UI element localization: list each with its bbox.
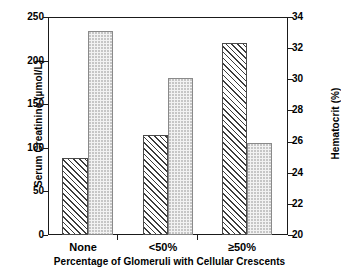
right-axis-tick: [288, 17, 293, 18]
right-axis-tick: [288, 48, 293, 49]
right-axis-tick-label: 22: [292, 199, 332, 209]
left-axis-tick-label: 0: [4, 230, 44, 240]
right-axis-tick: [288, 173, 293, 174]
right-axis-tick-label: 26: [292, 136, 332, 146]
right-axis-title: Hematocrit (%): [330, 34, 341, 214]
right-axis-tick-label: 28: [292, 105, 332, 115]
x-axis-category-label: None: [48, 241, 118, 253]
x-axis-tick: [117, 235, 118, 240]
x-axis-tick: [197, 235, 198, 240]
right-axis-tick-label: 20: [292, 230, 332, 240]
right-axis-tick: [288, 110, 293, 111]
bar-hematocrit-lt50[interactable]: [168, 78, 193, 235]
right-axis-tick-label: 34: [292, 12, 332, 22]
right-axis-tick-label: 32: [292, 43, 332, 53]
bars-layer: [48, 17, 288, 235]
left-axis-tick-label: 250: [4, 12, 44, 22]
left-axis-tick-label: 100: [4, 143, 44, 153]
left-axis-tick: [43, 235, 48, 236]
x-axis-category-label: <50%: [128, 241, 198, 253]
right-axis-tick-label: 30: [292, 74, 332, 84]
x-axis-category-label: ≥50%: [207, 241, 277, 253]
x-axis-title: Percentage of Glomeruli with Cellular Cr…: [0, 256, 339, 267]
left-axis-tick-label: 150: [4, 99, 44, 109]
left-axis-tick-label: 50: [4, 186, 44, 196]
right-axis-tick-label: 24: [292, 168, 332, 178]
bar-serum-creatinine-none[interactable]: [62, 158, 88, 235]
right-axis-tick: [288, 79, 293, 80]
bar-serum-creatinine-gte50[interactable]: [222, 43, 247, 235]
right-axis-tick: [288, 204, 293, 205]
bar-serum-creatinine-lt50[interactable]: [143, 135, 168, 235]
right-axis-tick: [288, 142, 293, 143]
left-axis-tick-label: 200: [4, 56, 44, 66]
bar-hematocrit-none[interactable]: [88, 31, 113, 235]
bar-hematocrit-gte50[interactable]: [247, 143, 272, 235]
right-axis-tick: [288, 235, 293, 236]
